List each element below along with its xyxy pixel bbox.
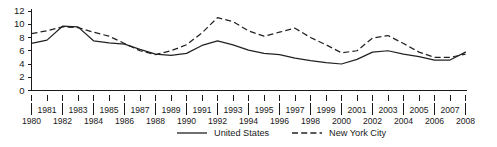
x-tick-label-even: 1984	[84, 116, 103, 126]
y-tick-label: 2	[19, 71, 24, 82]
data-series-group	[32, 18, 466, 64]
chart-legend: United StatesNew York City	[177, 128, 387, 138]
x-tick-label-even: 2002	[363, 116, 382, 126]
x-tick-label-odd: 1997	[285, 105, 304, 115]
x-tick-label-odd: 2007	[440, 105, 459, 115]
x-tick-label-odd: 1993	[223, 105, 242, 115]
y-tick-label: 12	[14, 5, 25, 16]
x-tick-label-even: 1996	[270, 116, 289, 126]
y-tick-label: 8	[19, 32, 24, 43]
series-line-united-states	[32, 26, 466, 64]
series-line-new-york-city	[32, 18, 466, 58]
x-tick-label-even: 1980	[22, 116, 41, 126]
x-tick-label-even: 1988	[146, 116, 165, 126]
x-tick-label-odd: 2005	[409, 105, 428, 115]
x-tick-label-even: 2004	[394, 116, 413, 126]
y-tick-label: 6	[19, 45, 24, 56]
x-tick-label-even: 1982	[53, 116, 72, 126]
x-tick-label-even: 1998	[301, 116, 320, 126]
unemployment-rate-line-chart: 024681012 198119831985198719891991199319…	[0, 0, 497, 147]
y-tick-label: 10	[14, 18, 25, 29]
x-axis: 1981198319851987198919911993199519971999…	[22, 91, 475, 126]
x-tick-label-odd: 1985	[99, 105, 118, 115]
x-tick-label-even: 2006	[425, 116, 444, 126]
legend-label-united-states: United States	[214, 128, 270, 138]
x-tick-label-odd: 1995	[254, 105, 273, 115]
y-tick-label: 4	[19, 58, 24, 69]
x-tick-label-even: 1986	[115, 116, 134, 126]
y-axis: 024681012	[14, 5, 32, 96]
x-tick-label-even: 2008	[456, 116, 475, 126]
x-tick-label-odd: 2003	[378, 105, 397, 115]
x-tick-label-odd: 1981	[37, 105, 56, 115]
x-tick-label-odd: 1983	[68, 105, 87, 115]
x-tick-label-even: 1990	[177, 116, 196, 126]
legend-label-new-york-city: New York City	[329, 128, 387, 138]
x-tick-label-odd: 2001	[347, 105, 366, 115]
x-tick-label-odd: 1999	[316, 105, 335, 115]
y-tick-label: 0	[19, 85, 24, 96]
x-tick-label-even: 1994	[239, 116, 258, 126]
x-tick-label-odd: 1991	[192, 105, 211, 115]
x-tick-label-odd: 1989	[161, 105, 180, 115]
x-tick-label-even: 1992	[208, 116, 227, 126]
x-tick-label-even: 2000	[332, 116, 351, 126]
x-tick-label-odd: 1987	[130, 105, 149, 115]
chart-plot-area: 024681012 198119831985198719891991199319…	[0, 0, 497, 147]
